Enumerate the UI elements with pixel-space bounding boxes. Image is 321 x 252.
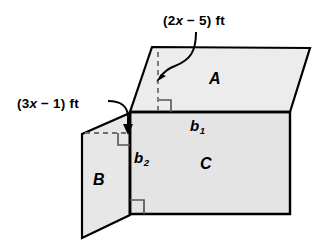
base-1-letter: b (190, 117, 199, 134)
figure-canvas (0, 0, 321, 252)
top-dimension-label: (2x − 5) ft (163, 14, 225, 28)
left-dimension-label: (3x − 1) ft (17, 97, 79, 111)
parallelogram-b-shape (82, 113, 130, 238)
base-2-letter: b (134, 149, 143, 166)
base-2-subscript: 2 (144, 157, 149, 168)
geometry-figure: (2x − 5) ft (3x − 1) ft A B C b1 b2 (0, 0, 321, 252)
region-b-label: B (93, 172, 105, 188)
region-a-label: A (209, 71, 221, 87)
base-2-label: b2 (134, 150, 148, 165)
base-1-subscript: 1 (200, 125, 205, 136)
left-dimension-text: (3x − 1) ft (17, 96, 79, 111)
base-1-label: b1 (190, 118, 204, 133)
region-c-label: C (200, 156, 212, 172)
top-dimension-text: (2x − 5) ft (163, 13, 225, 28)
